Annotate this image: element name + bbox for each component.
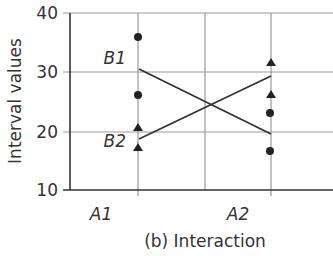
circle-marker bbox=[134, 91, 142, 99]
interaction-chart: 40 30 20 10 Interval values A1 A2 (b) In… bbox=[0, 0, 333, 256]
triangle-marker bbox=[133, 143, 143, 151]
y-axis-label: Interval values bbox=[5, 38, 25, 164]
circle-marker bbox=[134, 33, 142, 41]
y-tick-30: 30 bbox=[36, 62, 58, 82]
axes bbox=[63, 13, 333, 190]
triangle-marker bbox=[133, 123, 143, 131]
triangle-marker bbox=[266, 90, 276, 98]
triangle-marker bbox=[266, 58, 276, 66]
x-label-a1: A1 bbox=[89, 204, 112, 224]
y-tick-20: 20 bbox=[36, 122, 58, 142]
y-tick-10: 10 bbox=[36, 180, 58, 200]
series-label-b2: B2 bbox=[104, 131, 126, 151]
circle-marker bbox=[266, 147, 274, 155]
x-label-a2: A2 bbox=[226, 204, 249, 224]
series-label-b1: B1 bbox=[104, 48, 126, 68]
circle-marker bbox=[266, 109, 274, 117]
y-tick-40: 40 bbox=[36, 3, 58, 23]
chart-title: (b) Interaction bbox=[144, 231, 266, 251]
grid bbox=[63, 13, 333, 196]
